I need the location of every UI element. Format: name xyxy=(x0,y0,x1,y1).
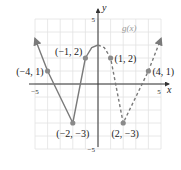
point-label: (4, 1) xyxy=(152,66,174,78)
y-axis-label: y xyxy=(101,2,107,13)
data-point xyxy=(121,120,126,125)
data-point xyxy=(45,68,50,73)
data-point xyxy=(108,55,113,60)
point-label: (−4, 1) xyxy=(16,66,43,78)
y-tick-label: 5 xyxy=(92,16,96,24)
function-label: g(x) xyxy=(122,23,137,33)
point-label: (2, −3) xyxy=(112,128,139,140)
x-axis-label: x xyxy=(166,84,172,95)
x-tick-label: 5 xyxy=(157,88,161,96)
data-point xyxy=(83,55,88,60)
data-point xyxy=(70,120,75,125)
y-tick-label: −5 xyxy=(88,146,96,154)
text-labels: (−4, 1)(−1, 2)(1, 2)(4, 1)(−2, −3)(2, −3… xyxy=(16,2,174,154)
function-graph: (−4, 1)(−1, 2)(1, 2)(4, 1)(−2, −3)(2, −3… xyxy=(0,0,181,170)
graph-canvas: (−4, 1)(−1, 2)(1, 2)(4, 1)(−2, −3)(2, −3… xyxy=(0,0,181,170)
x-tick-label: −5 xyxy=(31,88,39,96)
point-label: (1, 2) xyxy=(115,53,137,65)
point-label: (−2, −3) xyxy=(56,128,89,140)
point-label: (−1, 2) xyxy=(55,46,82,58)
data-point xyxy=(146,68,151,73)
